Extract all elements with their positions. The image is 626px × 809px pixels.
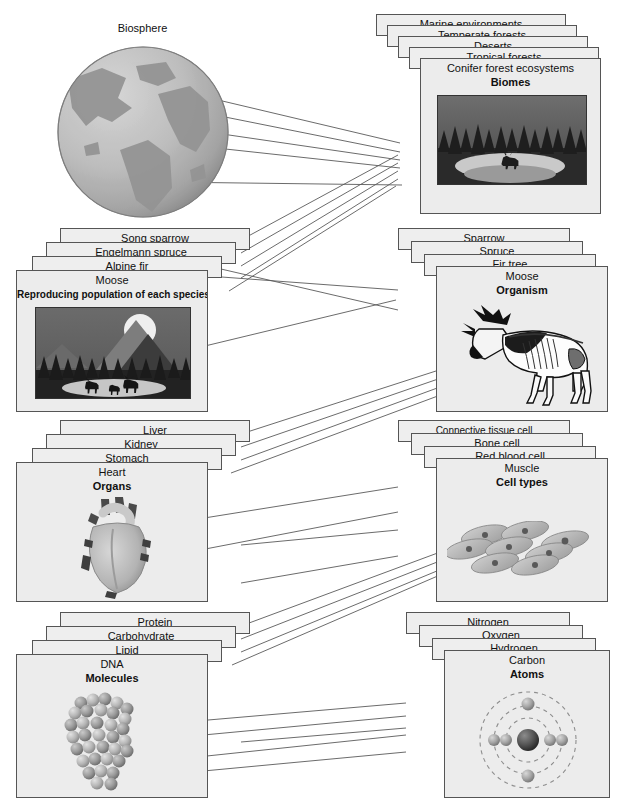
card-molecules-front[interactable]: DNA Molecules (16, 654, 208, 798)
stack-biomes: Marine environments Temperate forests De… (376, 14, 612, 214)
card-label-front: Conifer forest ecosystems (421, 59, 600, 75)
moose-organism-thumb (443, 299, 603, 407)
muscle-cells-thumb (447, 521, 597, 577)
stack-populations: Song sparrow Engelmann spruce Alpine fir… (16, 228, 252, 412)
stack-molecules: Protein Carbohydrate Lipid DNA Molecules (16, 612, 252, 798)
card-populations-front[interactable]: Moose Reproducing population of each spe… (16, 270, 208, 412)
card-atoms-front[interactable]: Carbon Atoms (444, 650, 610, 798)
card-group-label: Molecules (17, 671, 207, 685)
moose-population-thumb (35, 307, 191, 399)
card-label-front: Moose (437, 267, 607, 283)
card-group-label: Cell types (437, 475, 607, 489)
card-group-label: Biomes (421, 75, 600, 89)
card-cells-front[interactable]: Muscle Cell types (436, 458, 608, 602)
card-label-front: Muscle (437, 459, 607, 475)
card-group-label: Atoms (445, 667, 609, 681)
card-organs-front[interactable]: Heart Organs (16, 462, 208, 602)
card-label-front: DNA (17, 655, 207, 671)
stack-atoms: Nitrogen Oxygen Hydrogen Carbon Atoms (406, 612, 612, 798)
card-group-label: Reproducing population of each species (17, 287, 207, 301)
card-group-label: Organism (437, 283, 607, 297)
card-label-front: Carbon (445, 651, 609, 667)
biological-hierarchy-diagram: Biosphere (0, 0, 626, 809)
card-biomes-front[interactable]: Conifer forest ecosystems Biomes (420, 58, 601, 214)
heart-thumb (69, 497, 165, 599)
dna-molecule-thumb (57, 691, 169, 795)
conifer-forest-ecosystem-thumb (437, 95, 587, 185)
card-label-front: Heart (17, 463, 207, 479)
card-group-label: Organs (17, 479, 207, 493)
biosphere-group: Biosphere (40, 22, 245, 227)
card-organism-front[interactable]: Moose Organism (436, 266, 608, 412)
carbon-atom-thumb (463, 687, 593, 793)
stack-organism: Sparrow Spruce Fir tree Moose Organism (398, 228, 612, 412)
card-label-front: Moose (17, 271, 207, 287)
stack-cell-types: Connective tissue cell Bone cell Red blo… (398, 420, 612, 602)
stack-organs: Liver Kidney Stomach Heart Organs (16, 420, 252, 602)
earth-globe-icon (40, 22, 245, 227)
biosphere-label: Biosphere (40, 22, 245, 34)
